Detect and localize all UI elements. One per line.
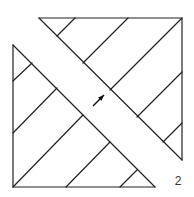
hatch-line xyxy=(137,72,182,117)
figure-label: 2 xyxy=(175,174,182,188)
hatch-line xyxy=(13,63,32,81)
arrow-icon xyxy=(93,95,104,106)
hatch-line xyxy=(110,18,182,90)
hatch-line xyxy=(163,123,182,142)
diagram-canvas: 2 xyxy=(0,0,194,197)
hatch-line xyxy=(13,115,83,187)
hatch-line xyxy=(83,18,128,63)
hatch-line xyxy=(66,142,110,187)
hatch-line xyxy=(13,88,57,133)
hatch-line xyxy=(120,170,137,187)
hatch-line xyxy=(57,18,75,36)
